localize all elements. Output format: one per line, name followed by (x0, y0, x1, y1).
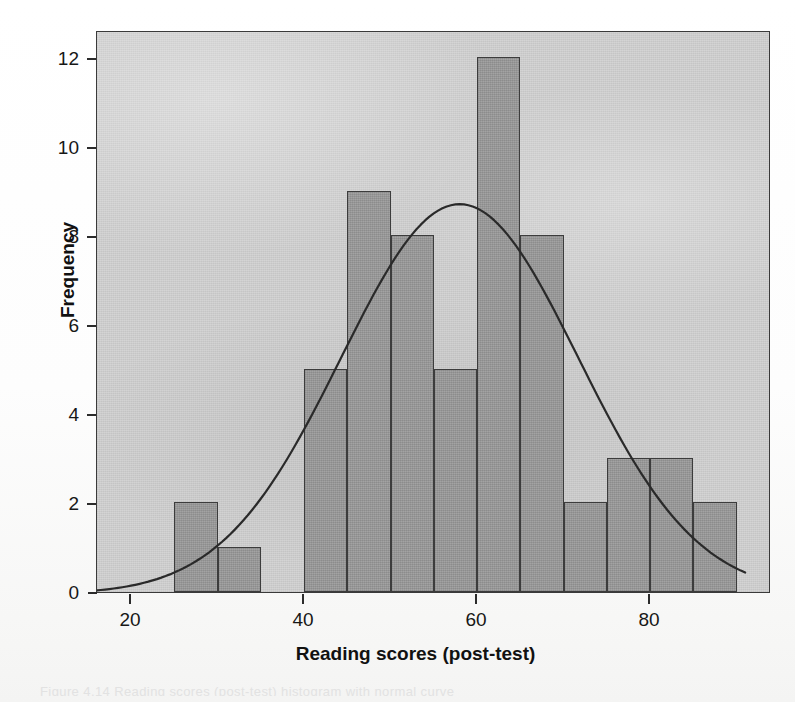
x-axis-tick-label: 40 (273, 610, 333, 629)
y-axis-tick-label: 0 (39, 583, 79, 602)
y-axis-tick (87, 503, 96, 505)
x-axis-tick (475, 594, 477, 604)
x-axis-title-text: Reading scores (post-test) (296, 643, 536, 665)
x-axis-tick-label: 60 (446, 610, 506, 629)
y-axis-tick (87, 414, 96, 416)
x-axis-tick (648, 594, 650, 604)
y-axis-tick (87, 236, 96, 238)
x-axis-tick-label: 20 (100, 610, 160, 629)
y-axis-tick-label: 12 (39, 49, 79, 68)
y-axis-tick (87, 325, 96, 327)
y-axis-tick-label: 2 (39, 494, 79, 513)
plot-panel (96, 31, 770, 593)
y-axis-tick-label: 10 (39, 138, 79, 157)
normal-curve-path (97, 204, 745, 590)
normal-curve-overlay (97, 32, 770, 593)
x-axis-tick (129, 594, 131, 604)
y-axis-tick-label: 4 (39, 405, 79, 424)
y-axis-origin-tick (88, 592, 97, 594)
y-axis-tick (87, 58, 96, 60)
histogram-figure: 024681012 20406080 Frequency Reading sco… (0, 0, 795, 702)
x-axis-tick-label: 80 (619, 610, 679, 629)
y-axis-title: Frequency (57, 210, 79, 330)
figure-caption-cropped: Figure 4.14 Reading scores (post-test) h… (40, 684, 760, 696)
y-axis-tick (87, 147, 96, 149)
x-axis-title: Reading scores (post-test) (0, 643, 795, 665)
x-axis-tick (302, 594, 304, 604)
